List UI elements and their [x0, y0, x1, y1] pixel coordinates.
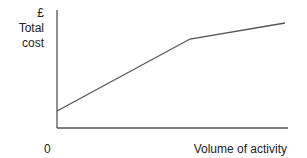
chart-plot — [0, 0, 307, 158]
total-cost-line — [57, 23, 285, 111]
origin-label: 0 — [44, 142, 51, 156]
x-axis-label: Volume of activity — [194, 142, 287, 156]
